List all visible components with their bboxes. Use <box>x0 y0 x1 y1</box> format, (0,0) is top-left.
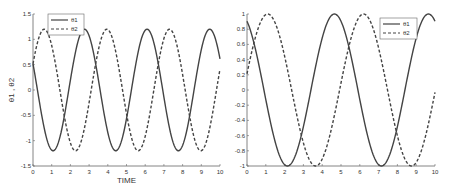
x-tick-label: 10 <box>432 169 439 175</box>
y-tick-label: 0.5 <box>23 62 32 68</box>
x-tick-label: 4 <box>321 169 325 175</box>
x-tick-label: 6 <box>144 169 148 175</box>
x-tick-label: 7 <box>377 169 381 175</box>
y-tick-label: 0.6 <box>237 41 246 47</box>
x-tick-label: 4 <box>106 169 110 175</box>
x-tick-label: 8 <box>396 169 400 175</box>
y-tick-label: -1 <box>240 163 246 169</box>
y-tick-label: -0.8 <box>235 148 246 154</box>
figure: 012345678910-1.5-1-0.500.511.5TIMEθ1 , θ… <box>0 0 455 188</box>
x-tick-label: 6 <box>358 169 362 175</box>
x-tick-label: 3 <box>87 169 91 175</box>
legend-label: θ2 <box>403 30 410 36</box>
y-tick-label: -0.4 <box>235 117 246 123</box>
legend-label: θ1 <box>71 17 78 23</box>
y-axis-label: θ1 , θ2 <box>7 77 16 102</box>
y-tick-label: 1 <box>242 11 246 17</box>
x-tick-label: 0 <box>31 169 35 175</box>
plot-2: 012345678910-1-0.8-0.6-0.4-0.200.20.40.6… <box>235 11 439 175</box>
y-tick-label: 0.8 <box>237 26 246 32</box>
x-tick-label: 9 <box>415 169 419 175</box>
x-tick-label: 1 <box>264 169 268 175</box>
x-tick-label: 10 <box>217 169 224 175</box>
x-tick-label: 2 <box>69 169 73 175</box>
plot-1: 012345678910-1.5-1-0.500.511.5TIMEθ1 , θ… <box>7 11 224 185</box>
y-tick-label: -1.5 <box>21 163 32 169</box>
series-line-theta1 <box>33 29 220 151</box>
x-axis-label: TIME <box>117 176 136 185</box>
x-tick-label: 0 <box>245 169 249 175</box>
legend: θ1θ2 <box>380 18 417 39</box>
x-tick-label: 3 <box>302 169 306 175</box>
x-tick-label: 2 <box>283 169 287 175</box>
legend-label: θ1 <box>403 21 410 27</box>
y-tick-label: 1.5 <box>23 11 32 17</box>
y-tick-label: 1 <box>28 36 32 42</box>
y-tick-label: 0 <box>28 87 32 93</box>
x-tick-label: 5 <box>125 169 129 175</box>
legend-label: θ2 <box>71 26 78 32</box>
legend: θ1θ2 <box>48 14 84 35</box>
y-tick-label: -1 <box>26 138 32 144</box>
y-tick-label: -0.2 <box>235 102 246 108</box>
x-tick-label: 9 <box>200 169 204 175</box>
x-tick-label: 8 <box>181 169 185 175</box>
y-tick-label: 0.2 <box>237 72 246 78</box>
y-tick-label: -0.6 <box>235 133 246 139</box>
y-tick-label: 0.4 <box>237 57 246 63</box>
x-tick-label: 7 <box>162 169 166 175</box>
y-tick-label: 0 <box>242 87 246 93</box>
x-tick-label: 1 <box>50 169 54 175</box>
x-tick-label: 5 <box>339 169 343 175</box>
y-tick-label: -0.5 <box>21 112 32 118</box>
